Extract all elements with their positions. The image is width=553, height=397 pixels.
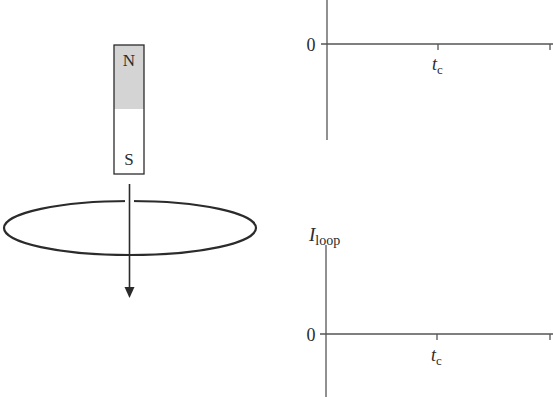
top-graph-tc-label: tc xyxy=(432,54,443,77)
bottom-graph: 0 tc Iloop xyxy=(307,224,553,397)
physics-diagram: N S 0 tc 0 tc Iloop xyxy=(0,0,553,397)
bar-magnet: N S xyxy=(114,45,144,174)
arrow-down-icon xyxy=(125,287,135,298)
bottom-graph-origin-label: 0 xyxy=(307,325,316,345)
bottom-graph-tc-label: tc xyxy=(431,345,442,368)
magnet-south-label: S xyxy=(124,150,133,169)
magnet-north-label: N xyxy=(123,51,135,70)
top-graph-origin-label: 0 xyxy=(307,35,316,55)
bottom-graph-y-label: Iloop xyxy=(308,224,340,248)
top-graph: 0 tc xyxy=(307,0,553,140)
